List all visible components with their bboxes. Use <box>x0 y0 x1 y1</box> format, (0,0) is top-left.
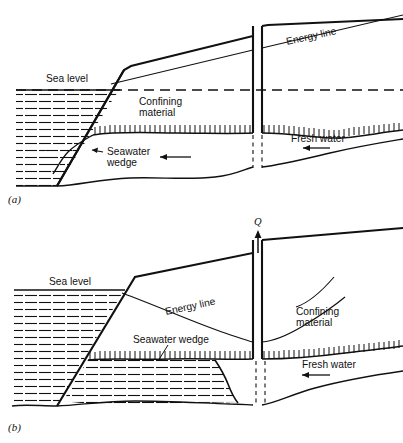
panel-caption-b: (b) <box>8 421 21 433</box>
figure-root: Sea level Confining material Energy line… <box>0 0 403 443</box>
label-discharge-q-b: Q <box>254 216 262 227</box>
label-seawater-wedge-a-line2: wedge <box>106 157 137 168</box>
label-fresh-water-b: Fresh water <box>302 359 356 370</box>
seawater-wedge-leader-a <box>92 148 103 154</box>
panel-b-drawing: Q Sea level Energy line Seawater wedge C… <box>0 215 403 443</box>
label-confining-material-b-line1: Confining <box>296 306 339 317</box>
confining-material-leader-b <box>296 277 334 307</box>
panel-a: Sea level Confining material Energy line… <box>0 0 403 215</box>
flow-arrow-fresh-water-a <box>303 145 330 151</box>
label-energy-line-b: Energy line <box>164 296 216 317</box>
flow-arrow-aquifer-a <box>160 154 191 160</box>
flow-arrow-fresh-water-b <box>302 372 330 378</box>
label-sea-level-b: Sea level <box>49 276 91 287</box>
aquifer-top-left <box>93 133 253 136</box>
label-confining-material-a-line1: Confining <box>139 96 182 107</box>
label-sea-level-a: Sea level <box>46 73 88 84</box>
panel-b: Q Sea level Energy line Seawater wedge C… <box>0 215 403 443</box>
sea-body <box>14 88 124 188</box>
label-seawater-wedge-a-line1: Seawater <box>107 146 151 157</box>
energy-line-a <box>111 15 403 84</box>
discharge-arrow-b <box>255 230 262 253</box>
label-confining-material-b-line2: material <box>296 317 332 328</box>
panel-caption-a: (a) <box>8 193 21 205</box>
aquifer-top-right-b <box>262 346 403 359</box>
label-confining-material-a-line2: material <box>139 107 175 118</box>
label-seawater-wedge-b: Seawater wedge <box>133 334 209 345</box>
label-fresh-water-a: Fresh water <box>291 133 345 144</box>
label-energy-line-a: Energy line <box>285 25 337 47</box>
confining-material-hachures-a <box>95 123 399 138</box>
panel-a-drawing: Sea level Confining material Energy line… <box>0 0 403 215</box>
